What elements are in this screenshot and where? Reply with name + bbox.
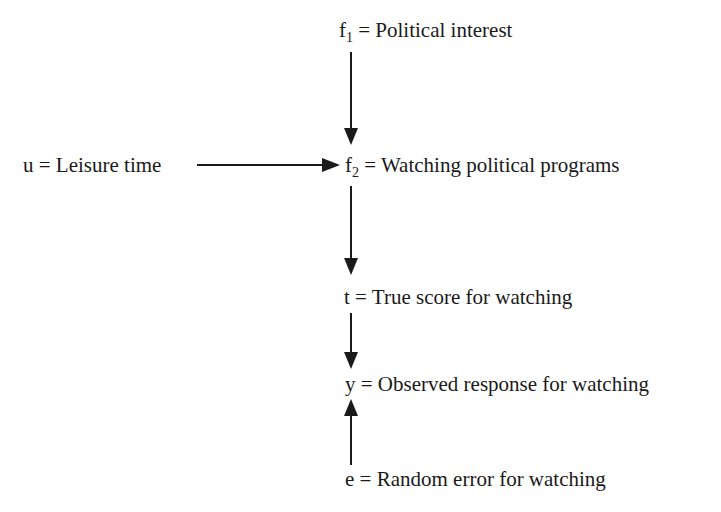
arrow-f1-to-f2 — [344, 52, 358, 145]
node-f2-label: = Watching political programs — [359, 153, 620, 177]
node-t-true-score: t = True score for watching — [344, 285, 572, 309]
node-f1-label: = Political interest — [353, 18, 512, 42]
arrow-t-to-y — [344, 313, 358, 369]
node-f1-var: f — [339, 18, 346, 42]
node-t-label: = True score for watching — [350, 285, 572, 309]
node-y-observed-response: y = Observed response for watching — [345, 372, 649, 396]
node-f2-sub: 2 — [352, 165, 359, 180]
node-y-label: = Observed response for watching — [356, 372, 650, 396]
node-f1-sub: 1 — [346, 30, 353, 45]
node-u-label: = Leisure time — [34, 153, 162, 177]
node-f1-political-interest: f1 = Political interest — [339, 18, 512, 42]
node-u-var: u — [23, 153, 34, 177]
node-y-var: y — [345, 372, 356, 396]
node-e-var: e — [345, 467, 354, 491]
node-e-label: = Random error for watching — [354, 467, 606, 491]
node-e-random-error: e = Random error for watching — [345, 467, 606, 491]
node-u-leisure-time: u = Leisure time — [23, 153, 161, 177]
arrow-u-to-f2 — [197, 158, 340, 172]
arrows-layer — [0, 0, 721, 512]
node-f2-watching-programs: f2 = Watching political programs — [345, 153, 620, 177]
arrow-e-to-y — [344, 399, 358, 465]
node-f2-var: f — [345, 153, 352, 177]
arrow-f2-to-t — [344, 186, 358, 275]
